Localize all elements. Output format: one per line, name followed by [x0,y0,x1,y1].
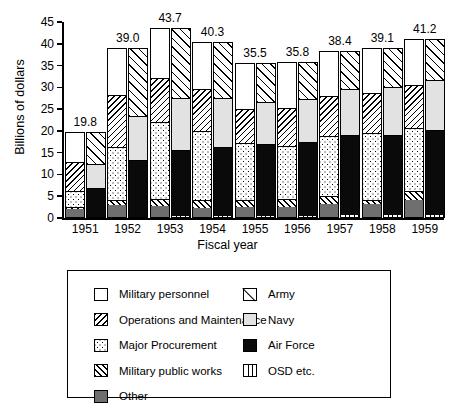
y-tick [57,43,62,45]
bar-segment [214,216,232,217]
bar-group: 39.0 [107,22,148,218]
bar-right[interactable] [86,132,106,218]
bar-segment [108,200,126,206]
legend-column-service: ArmyNavyAir ForceOSD etc. [243,283,315,385]
y-tick [57,21,62,23]
bar-segment [193,200,211,208]
bar-segment [299,62,317,98]
bar-segment [236,143,254,200]
bar-total-label: 35.8 [286,45,309,59]
bar-segment [151,122,169,199]
x-tick-label: 1959 [411,222,438,236]
bar-right[interactable] [128,48,148,218]
bar-segment [214,42,232,98]
bar-segment [87,188,105,217]
bar-right[interactable] [171,28,191,218]
bar-segment [363,93,381,133]
bar-left[interactable] [319,51,339,218]
bar-segment [320,51,338,97]
bar-segment [236,207,254,217]
bar-segment [405,39,423,85]
bar-segment [405,191,423,200]
bar-left[interactable] [107,48,127,218]
bar-group: 39.1 [362,22,403,218]
bar-right[interactable] [213,42,233,218]
bar-right[interactable] [298,62,318,218]
legend-swatch-solid-dark-gray [94,390,108,403]
legend-label: Other [119,390,148,402]
y-tick-label: 35 [41,59,54,73]
chart-page: Billions of dollars 051015202530354045 1… [0,0,455,410]
y-axis-line [62,22,64,218]
bar-left[interactable] [192,42,212,218]
y-tick [57,87,62,89]
legend-swatch-single-diagonal [243,288,257,301]
legend-item[interactable]: Military personnel [94,283,267,305]
bar-segment [151,78,169,122]
bar-segment [405,200,423,217]
x-axis-line [62,218,444,220]
bar-segment [341,51,359,89]
bar-segment [405,128,423,191]
x-tick-label: 1952 [114,222,141,236]
bar-segment [363,204,381,217]
bar-right[interactable] [256,63,276,218]
bar-segment [426,39,444,81]
bar-segment [320,196,338,204]
legend-item[interactable]: Navy [243,309,315,331]
y-axis-label: Billions of dollars [13,27,27,187]
legend-label: Military public works [119,365,222,377]
bar-right[interactable] [425,39,445,218]
bar-group: 40.3 [192,22,233,218]
bar-segment [299,99,317,143]
bar-segment [341,135,359,215]
bar-left[interactable] [235,63,255,218]
legend-item[interactable]: Operations and Maintenance [94,309,267,331]
bar-segment [257,63,275,101]
x-tick-label: 1957 [327,222,354,236]
y-tick-label: 25 [41,102,54,116]
legend-item[interactable]: Military public works [94,360,267,382]
bar-segment [257,144,275,216]
bar-segment [151,28,169,78]
bar-right[interactable] [383,48,403,218]
bar-left[interactable] [65,132,85,218]
bar-segment [426,80,444,130]
bar-right[interactable] [340,51,360,218]
bar-total-label: 19.8 [74,115,97,129]
bar-segment [193,208,211,217]
legend-item[interactable]: Army [243,283,315,305]
bar-left[interactable] [362,48,382,218]
legend-item[interactable]: Other [94,385,267,407]
bar-segment [66,132,84,162]
bar-segment [66,191,84,208]
bar-segment [363,48,381,93]
y-tick [57,130,62,132]
bar-total-label: 39.1 [371,31,394,45]
bar-group: 41.2 [404,22,445,218]
bar-segment [193,89,211,131]
bar-left[interactable] [404,39,424,218]
bar-segment [236,200,254,207]
bar-segment [172,98,190,150]
legend-swatch-vertical-bars [243,364,257,377]
x-tick-label: 1958 [369,222,396,236]
bar-segment [108,205,126,217]
y-tick-label: 0 [47,211,54,225]
bar-segment [363,200,381,205]
legend-item[interactable]: Major Procurement [94,334,267,356]
y-tick [57,217,62,219]
legend-label: OSD etc. [268,365,315,377]
bar-segment [278,62,296,108]
legend-item[interactable]: OSD etc. [243,360,315,382]
legend-label: Air Force [268,339,315,351]
legend-item[interactable]: Air Force [243,334,315,356]
bar-segment [299,142,317,216]
y-tick-label: 10 [41,167,54,181]
y-tick-label: 45 [41,15,54,29]
bar-group: 43.7 [150,22,191,218]
bar-segment [151,199,169,206]
bar-left[interactable] [277,62,297,218]
legend-swatch-back-slash-hatch [94,313,108,326]
bar-left[interactable] [150,28,170,218]
